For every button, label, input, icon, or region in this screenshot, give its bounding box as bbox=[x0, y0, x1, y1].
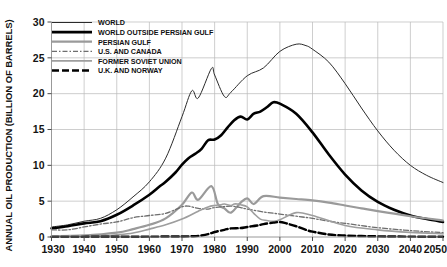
legend-item-0: WORLD bbox=[52, 18, 125, 27]
x-tick-label: 2040 bbox=[399, 243, 423, 255]
legend-item-1: WORLD OUTSIDE PERSIAN GULF bbox=[52, 28, 214, 37]
x-tick-label: 1980 bbox=[203, 243, 227, 255]
y-tick-label: 5 bbox=[39, 195, 45, 207]
legend-label: WORLD bbox=[98, 18, 125, 27]
legend-item-5: U.K. AND NORWAY bbox=[52, 66, 163, 75]
y-axis-title-text: ANNUAL OIL PRODUCTION (BILLION OF BARREL… bbox=[3, 20, 14, 252]
y-tick-label: 25 bbox=[33, 52, 45, 64]
chart-legend: WORLDWORLD OUTSIDE PERSIAN GULFPERSIAN G… bbox=[52, 18, 214, 75]
legend-label: U.S. AND CANADA bbox=[98, 47, 162, 56]
legend-label: FORMER SOVIET UNION bbox=[98, 57, 182, 66]
x-tick-label: 1950 bbox=[105, 243, 129, 255]
y-tick-label: 15 bbox=[33, 123, 45, 135]
legend-label: U.K. AND NORWAY bbox=[98, 66, 163, 75]
x-tick-label: 1970 bbox=[170, 243, 194, 255]
y-tick-label: 0 bbox=[39, 231, 45, 243]
x-tick-label: 2050 bbox=[424, 243, 447, 255]
oil-production-chart: 0510152025301930194019501960197019801990… bbox=[0, 0, 447, 267]
y-tick-label: 20 bbox=[33, 87, 45, 99]
x-tick-label: 2000 bbox=[268, 243, 292, 255]
x-tick-label: 1960 bbox=[138, 243, 162, 255]
legend-label: PERSIAN GULF bbox=[98, 38, 152, 47]
y-tick-label: 10 bbox=[33, 159, 45, 171]
x-tick-label: 1930 bbox=[42, 243, 66, 255]
x-tick-label: 2020 bbox=[333, 243, 357, 255]
tick-label-layer: 0510152025301930194019501960197019801990… bbox=[33, 16, 447, 255]
y-axis-title: ANNUAL OIL PRODUCTION (BILLION OF BARREL… bbox=[3, 20, 14, 252]
x-tick-label: 1990 bbox=[236, 243, 260, 255]
x-tick-label: 2010 bbox=[301, 243, 325, 255]
legend-label: WORLD OUTSIDE PERSIAN GULF bbox=[98, 28, 214, 37]
y-tick-label: 30 bbox=[33, 16, 45, 28]
legend-item-3: U.S. AND CANADA bbox=[52, 47, 162, 56]
legend-item-2: PERSIAN GULF bbox=[52, 38, 152, 47]
chart-canvas: 0510152025301930194019501960197019801990… bbox=[0, 0, 447, 267]
x-tick-label: 2030 bbox=[366, 243, 390, 255]
x-tick-label: 1940 bbox=[72, 243, 96, 255]
